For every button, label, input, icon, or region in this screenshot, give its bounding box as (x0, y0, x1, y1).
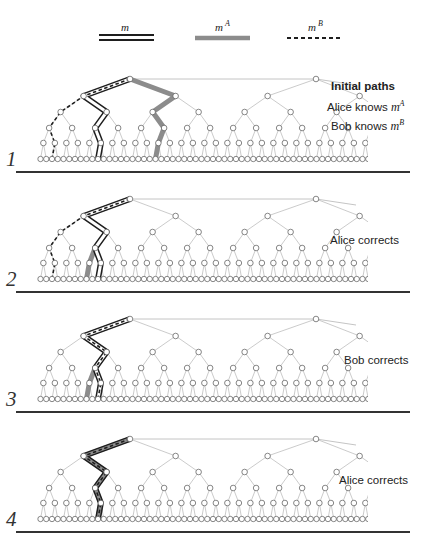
tree-node (141, 156, 146, 161)
tree-node (196, 109, 202, 115)
tree-node (354, 156, 359, 161)
tree-node (101, 396, 106, 401)
tree-node (141, 516, 146, 521)
tree-node (107, 396, 112, 401)
tree-node (239, 516, 244, 521)
tree-node (360, 156, 365, 161)
tree-node (331, 516, 336, 521)
tree-node (222, 516, 227, 521)
tree-node (276, 365, 282, 371)
tree-node (173, 333, 179, 339)
tree-node (253, 485, 259, 491)
tree-node (357, 93, 363, 99)
tree-node (144, 260, 150, 266)
tree-node (81, 333, 87, 339)
tree-node (107, 276, 112, 281)
tree-node (391, 485, 397, 491)
tree-node (92, 125, 98, 131)
tree-node (397, 140, 403, 146)
tree-node (38, 396, 43, 401)
tree-node (299, 125, 305, 131)
tree-node (288, 469, 294, 475)
tree-node (138, 245, 144, 251)
tree-node (236, 500, 242, 506)
tree-node (55, 156, 60, 161)
tree-node (354, 516, 359, 521)
tree-node (400, 276, 405, 281)
tree-node (61, 516, 66, 521)
tree-node (38, 276, 43, 281)
tree-node (337, 276, 342, 281)
tree-node (159, 156, 164, 161)
tree-node (202, 260, 208, 266)
tree-node (118, 276, 123, 281)
tree-node (167, 140, 173, 146)
tree-node (363, 260, 369, 266)
tree-node (391, 245, 397, 251)
tree-node (268, 156, 273, 161)
tree-node (150, 349, 156, 355)
tree-node (377, 156, 382, 161)
tree-node (363, 140, 369, 146)
tree-node (282, 380, 288, 386)
tree-node (75, 500, 81, 506)
tree-node (340, 500, 346, 506)
legend-item-mA: m A (195, 19, 250, 38)
tree-node (351, 260, 357, 266)
tree-node (92, 245, 98, 251)
tree-node (271, 380, 277, 386)
tree-node (173, 213, 179, 219)
tree-node (182, 516, 187, 521)
tree-node (44, 516, 49, 521)
tree-node (236, 260, 242, 266)
tree-node (75, 140, 81, 146)
tree-node (305, 500, 311, 506)
tree-node (196, 229, 202, 235)
tree-node (193, 156, 198, 161)
tree-node (357, 213, 363, 219)
tree-node (400, 156, 405, 161)
tree-node (233, 156, 238, 161)
tree-node (184, 245, 190, 251)
tree-node (394, 276, 399, 281)
tree-node (360, 396, 365, 401)
tree-node (87, 500, 93, 506)
tree-node (354, 276, 359, 281)
tree-node (308, 276, 313, 281)
tree-node (104, 229, 110, 235)
tree-node (136, 516, 141, 521)
tree-node (141, 276, 146, 281)
tree-node (205, 396, 210, 401)
tree-node (64, 380, 70, 386)
tree-node (159, 276, 164, 281)
tree-node (314, 516, 319, 521)
tree-node (41, 500, 47, 506)
tree-node (389, 276, 394, 281)
tree-node (190, 140, 196, 146)
panel-2-caption-0: Alice corrects (330, 234, 399, 246)
tree-node (320, 276, 325, 281)
tree-node (164, 396, 169, 401)
tree-node (58, 109, 64, 115)
tree-node (262, 156, 267, 161)
tree-node (371, 156, 376, 161)
tree-node (368, 365, 374, 371)
tree-node (199, 396, 204, 401)
legend-sup-mA: A (224, 19, 230, 28)
tree-node (167, 500, 173, 506)
tree-node (343, 516, 348, 521)
tree-node (64, 500, 70, 506)
tree-node (213, 500, 219, 506)
tree-node (113, 396, 118, 401)
tree-node (38, 516, 43, 521)
tree-node (317, 260, 323, 266)
tree-node (386, 140, 392, 146)
tree-node (213, 380, 219, 386)
tree-node (184, 365, 190, 371)
tree-node (265, 93, 271, 99)
tree-node (130, 156, 135, 161)
tree-node (325, 276, 330, 281)
tree-node (113, 276, 118, 281)
tree-node (383, 276, 388, 281)
panels: 1234 (5, 76, 410, 532)
